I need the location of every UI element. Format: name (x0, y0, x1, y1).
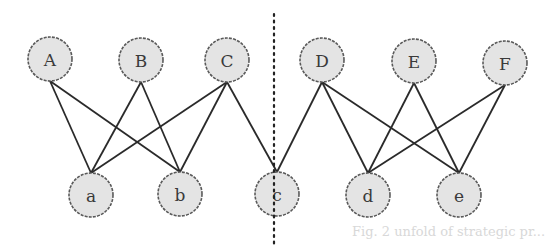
edge-C-c (227, 82, 277, 172)
node-c: c (255, 172, 299, 216)
edge-B-a (91, 82, 141, 173)
node-label: A (43, 50, 57, 70)
node-b: b (158, 172, 202, 216)
node-D: D (300, 38, 344, 82)
node-label: d (363, 186, 374, 206)
faded-caption: Fig. 2 unfold of strategic pr... (352, 224, 545, 239)
node-A: A (28, 37, 72, 81)
node-label: e (454, 186, 464, 206)
node-d: d (346, 173, 390, 217)
node-label: C (220, 51, 233, 71)
node-C: C (205, 38, 249, 82)
node-label: D (315, 51, 329, 71)
node-label: E (408, 52, 420, 72)
edge-D-d (322, 82, 368, 173)
node-label: F (499, 54, 511, 74)
node-a: a (69, 173, 113, 217)
edges-layer (50, 81, 505, 173)
edge-D-c (277, 82, 322, 172)
node-F: F (483, 41, 527, 85)
nodes-layer: ABCDEFabcde (28, 37, 527, 217)
node-B: B (119, 38, 163, 82)
node-E: E (392, 39, 436, 83)
edge-F-d (368, 85, 505, 173)
edge-C-a (91, 82, 227, 173)
bipartite-graph: Fig. 2 unfold of strategic pr... ABCDEFa… (0, 0, 555, 250)
edge-F-e (459, 85, 505, 173)
node-e: e (437, 173, 481, 217)
edge-C-b (180, 82, 227, 172)
node-label: b (175, 185, 186, 205)
edge-E-d (368, 83, 414, 173)
node-label: B (135, 51, 148, 71)
node-label: a (86, 186, 96, 206)
